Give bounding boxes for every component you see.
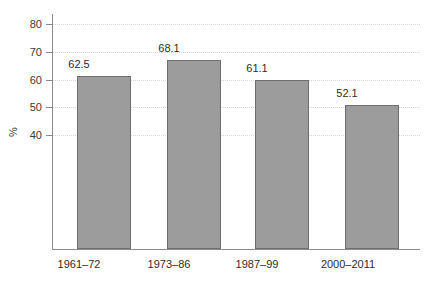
gridline-70 [52, 52, 420, 53]
y-tick-40 [46, 135, 52, 136]
y-axis-title: % [7, 127, 19, 137]
bar-value-1987-99: 61.1 [227, 63, 287, 74]
bar-value-2000-2011: 52.1 [317, 88, 377, 99]
bar-value-1961-72: 62.5 [49, 59, 109, 70]
y-tick-label-50: 50 [2, 102, 42, 113]
bar-2000-2011 [345, 105, 399, 250]
y-tick-60 [46, 80, 52, 81]
bar-1987-99 [255, 80, 309, 250]
y-tick-80 [46, 24, 52, 25]
y-tick-70 [46, 52, 52, 53]
y-tick-label-80: 80 [2, 19, 42, 30]
bar-value-1973-86: 68.1 [139, 43, 199, 54]
bar-1973-86 [167, 60, 221, 249]
x-tick-label-1987-99: 1987–99 [225, 258, 289, 270]
y-tick-50 [46, 107, 52, 108]
x-tick-label-2000-2011: 2000–2011 [313, 258, 383, 270]
bar-chart: 80 70 60 50 40 % 62.5 68.1 61.1 52.1 196… [0, 0, 431, 281]
y-tick-label-70: 70 [2, 47, 42, 58]
x-tick-label-1961-72: 1961–72 [47, 258, 111, 270]
y-axis-line [52, 14, 53, 249]
gridline-80 [52, 24, 420, 25]
x-axis-line [52, 249, 420, 250]
y-tick-label-60: 60 [2, 75, 42, 86]
plot-area [52, 14, 420, 249]
bar-1961-72 [77, 76, 131, 250]
x-tick-label-1973-86: 1973–86 [137, 258, 201, 270]
